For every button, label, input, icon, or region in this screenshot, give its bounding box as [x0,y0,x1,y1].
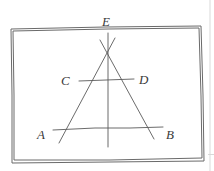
label-c: C [61,73,70,88]
label-a: A [36,127,45,142]
label-e: E [101,14,110,29]
label-b: B [166,127,174,142]
line-cd [79,79,134,81]
left-slant-line [59,38,115,143]
outer-frame [11,26,204,163]
page-edge-tick [208,154,214,155]
label-d: D [138,72,149,87]
diagram-canvas: E C D A B [0,0,214,171]
page-edge [209,0,211,171]
